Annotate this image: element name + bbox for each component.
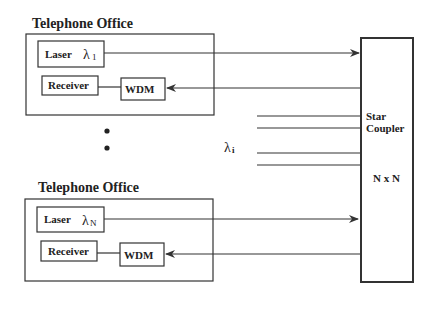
laser-label: Laser — [45, 48, 72, 60]
receiver-label: Receiver — [48, 245, 89, 257]
wavelength-subscript: N — [90, 218, 97, 228]
coupler-label-line2: Coupler — [366, 122, 405, 134]
wavelength-symbol: λ — [83, 47, 90, 62]
star-coupler-box — [361, 38, 413, 282]
telephone-office-top: Telephone Office Laser λ 1 Receiver WDM — [26, 16, 360, 115]
wavelength-subscript: 1 — [92, 52, 97, 62]
laser-label: Laser — [44, 213, 71, 225]
office-box — [26, 34, 214, 115]
office-box — [25, 199, 213, 281]
wavelength-symbol: λ — [82, 213, 89, 228]
wdm-label: WDM — [124, 249, 154, 261]
coupler-size-label: N x N — [373, 172, 400, 184]
telephone-office-bottom: Telephone Office Laser λ N Receiver WDM — [25, 180, 360, 281]
coupler-label-line1: Star — [366, 110, 386, 122]
star-coupler: Star Coupler N x N — [361, 38, 413, 282]
wavelength-i-subscript: i — [232, 145, 235, 155]
wdm-label: WDM — [125, 83, 155, 95]
telephone-star-network-diagram: Telephone Office Laser λ 1 Receiver WDM … — [0, 0, 435, 311]
wavelength-i-symbol: λ — [224, 140, 231, 155]
ellipsis-dot — [104, 145, 109, 150]
office-title: Telephone Office — [38, 180, 139, 195]
ellipsis-dot — [104, 128, 109, 133]
receiver-label: Receiver — [48, 79, 89, 91]
office-title: Telephone Office — [32, 16, 133, 31]
intermediate-fiber-lines: λ i — [224, 116, 361, 165]
